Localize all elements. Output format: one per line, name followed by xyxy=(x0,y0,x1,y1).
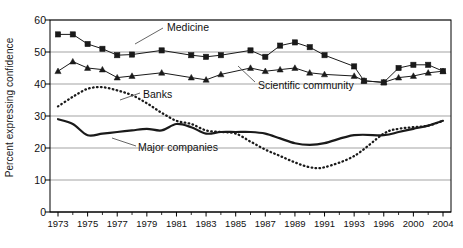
x-tick-1989: 1989 xyxy=(284,218,305,229)
marker-square-medicine xyxy=(278,43,283,48)
marker-square-medicine xyxy=(426,62,431,67)
marker-square-medicine xyxy=(115,53,120,58)
x-tick-1993: 1993 xyxy=(344,218,365,229)
marker-square-medicine xyxy=(159,48,164,53)
series-line-banks xyxy=(58,87,443,168)
leader-medicine xyxy=(135,28,163,44)
leader-banks xyxy=(120,93,140,100)
x-tick-1987: 1987 xyxy=(255,218,276,229)
annotation-major-companies: Major companies xyxy=(138,141,218,153)
marker-square-medicine xyxy=(322,53,327,58)
x-tick-1981: 1981 xyxy=(166,218,187,229)
marker-triangle-scientific-community xyxy=(247,65,253,71)
x-tick-1985: 1985 xyxy=(225,218,246,229)
marker-square-medicine xyxy=(248,48,253,53)
x-tick-1975: 1975 xyxy=(77,218,98,229)
marker-triangle-scientific-community xyxy=(292,65,298,71)
annotation-medicine: Medicine xyxy=(167,21,209,33)
annotation-banks: Banks xyxy=(143,88,172,100)
marker-square-medicine xyxy=(307,45,312,50)
x-tick-1979: 1979 xyxy=(136,218,157,229)
marker-triangle-scientific-community xyxy=(55,68,61,74)
marker-square-medicine xyxy=(218,53,223,58)
x-tick-2000: 2000 xyxy=(403,218,424,229)
marker-square-medicine xyxy=(55,32,60,37)
marker-square-medicine xyxy=(263,54,268,59)
marker-square-medicine xyxy=(396,65,401,70)
marker-square-medicine xyxy=(411,62,416,67)
x-tick-1983: 1983 xyxy=(195,218,216,229)
annotation-scientific-community: Scientific community xyxy=(258,79,354,91)
marker-square-medicine xyxy=(70,32,75,37)
x-tick-2004: 2004 xyxy=(432,218,453,229)
marker-square-medicine xyxy=(189,53,194,58)
series-line-medicine xyxy=(58,34,443,82)
x-tick-1977: 1977 xyxy=(107,218,128,229)
x-tick-1973: 1973 xyxy=(47,218,68,229)
marker-square-medicine xyxy=(100,46,105,51)
marker-square-medicine xyxy=(85,41,90,46)
marker-square-medicine xyxy=(203,54,208,59)
marker-square-medicine xyxy=(352,64,357,69)
marker-square-medicine xyxy=(292,40,297,45)
leader-major-companies xyxy=(112,138,136,146)
x-tick-1991: 1991 xyxy=(314,218,335,229)
marker-triangle-scientific-community xyxy=(159,70,165,76)
marker-triangle-scientific-community xyxy=(70,58,76,64)
plot-canvas xyxy=(0,0,463,248)
x-tick-1996: 1996 xyxy=(373,218,394,229)
marker-triangle-scientific-community xyxy=(85,65,91,71)
chart-figure: Percent expressing confidence 60 50 40 3… xyxy=(0,0,463,248)
marker-square-medicine xyxy=(129,52,134,57)
